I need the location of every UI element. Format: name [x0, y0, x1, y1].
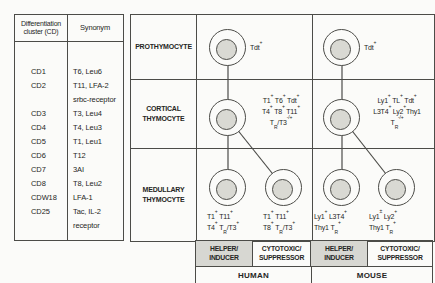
- cd-value: CD2: [15, 79, 67, 93]
- mouse-medullary-helper-markers: Ly1+ L3T4+ Thy1 TR+: [314, 211, 347, 233]
- synonym-value: T11, LFA-2 srbc-receptor: [67, 79, 123, 107]
- table-header-divider: [15, 41, 123, 42]
- cell-nucleus: [330, 39, 351, 60]
- cd-table: Differentiation cluster (CD) Synonym CD1…: [14, 14, 124, 241]
- table-row: CD1T6, Leu6: [15, 65, 123, 79]
- cd-value: CD5: [15, 135, 67, 149]
- mouse-medullary-helper-cell: [323, 169, 360, 206]
- table-row: CD4T4, Leu3: [15, 121, 123, 135]
- lineage-box-mouse-cytotoxic-suppressor: CYTOTOXIC/ SUPPRESSOR: [367, 240, 433, 267]
- lineage-box-human-helper-inducer: HELPER/ INDUCER: [195, 240, 253, 267]
- species-row: HUMAN MOUSE: [195, 267, 433, 283]
- table-row: CDW18LFA-1: [15, 191, 123, 205]
- lineage-box-row: HELPER/ INDUCER CYTOTOXIC/ SUPPRESSOR HE…: [195, 240, 433, 267]
- table-row: CD5T1, Leu1: [15, 135, 123, 149]
- cell-nucleus: [272, 179, 293, 200]
- mouse-medullary-cytotoxic-cell: [378, 169, 415, 206]
- marker-line: TR-/+: [359, 117, 435, 128]
- cd-table-header-synonym: Synonym: [67, 15, 123, 41]
- marker-line: Thy1 TR+: [314, 222, 347, 233]
- cell-nucleus: [385, 179, 406, 200]
- synonym-value: T1, Leu1: [67, 135, 123, 149]
- cd-value: CD1: [15, 65, 67, 79]
- cd-value: CD3: [15, 107, 67, 121]
- table-row: CD6T12: [15, 149, 123, 163]
- mouse-prothymocyte-markers: Tdt+: [364, 42, 376, 53]
- mouse-prothymocyte-cell: [323, 29, 360, 66]
- synonym-value: T12: [67, 149, 123, 163]
- marker-line: Ly1+ TL+ Tdt+: [359, 95, 435, 106]
- table-row: CD73AI: [15, 163, 123, 177]
- marker-line: Thy1 TR+: [369, 222, 397, 233]
- human-cortical-markers: T1+ T6+ Tdt+ T4+ T8+ T11+ TR/T3-/+: [239, 95, 323, 128]
- human-medullary-cytotoxic-markers: T1+ T11+ T8+ TR/T3+: [263, 211, 295, 233]
- thymocyte-diagram: PROTHYMOCYTE CORTICAL THYMOCYTE MEDULLAR…: [130, 14, 435, 242]
- human-medullary-cytotoxic-cell: [265, 169, 302, 206]
- mouse-medullary-cytotoxic-markers: Ly1± Ly2+ Thy1 TR+: [369, 211, 397, 233]
- cd-value: CD25: [15, 205, 67, 219]
- species-label-mouse: MOUSE: [311, 267, 433, 283]
- cd-table-header: Differentiation cluster (CD) Synonym: [15, 15, 123, 41]
- thymocyte-differentiation-figure: Differentiation cluster (CD) Synonym CD1…: [0, 0, 435, 283]
- cd-table-header-cd: Differentiation cluster (CD): [15, 15, 67, 41]
- table-row: CD2T11, LFA-2 srbc-receptor: [15, 79, 123, 107]
- cell-nucleus: [330, 179, 351, 200]
- marker-line: Ly1+ L3T4+: [314, 211, 347, 222]
- table-row: CD8T8, Leu2: [15, 177, 123, 191]
- cd-value: CDW18: [15, 191, 67, 205]
- cd-value: CD7: [15, 163, 67, 177]
- marker-line: T1+ T11+: [263, 211, 295, 222]
- species-label-human: HUMAN: [195, 267, 311, 283]
- table-row: CD3T3, Leu4: [15, 107, 123, 121]
- mouse-cortical-markers: Ly1+ TL+ Tdt+ L3T4+ Ly2+Thy1 TR-/+: [359, 95, 435, 128]
- synonym-value: T4, Leu3: [67, 121, 123, 135]
- marker-line: T8+ TR/T3+: [263, 222, 295, 233]
- synonym-value: LFA-1: [67, 191, 123, 205]
- synonym-value: T6, Leu6: [67, 65, 123, 79]
- lineage-box-human-cytotoxic-suppressor: CYTOTOXIC/ SUPPRESSOR: [252, 240, 311, 267]
- synonym-value: T3, Leu4: [67, 107, 123, 121]
- marker-line: T4+ T8+ T11+: [239, 106, 323, 117]
- human-medullary-helper-cell: [209, 169, 246, 206]
- marker-line: L3T4+ Ly2+Thy1: [359, 106, 435, 117]
- marker-line: TR/T3-/+: [239, 117, 323, 128]
- human-medullary-helper-markers: T1+ T11+ T4+ TR/T3+: [207, 211, 239, 233]
- synonym-value: Tac, IL-2 receptor: [67, 205, 123, 233]
- table-row: CD25Tac, IL-2 receptor: [15, 205, 123, 233]
- cd-value: CD8: [15, 177, 67, 191]
- cell-nucleus: [216, 109, 237, 130]
- synonym-value: T8, Leu2: [67, 177, 123, 191]
- synonym-value: 3AI: [67, 163, 123, 177]
- cd-value: CD4: [15, 121, 67, 135]
- marker-line: T4+ TR/T3+: [207, 222, 239, 233]
- lineage-connector-lines: [131, 15, 434, 241]
- human-prothymocyte-markers: Tdt+: [250, 42, 262, 53]
- marker-line: T1+ T6+ Tdt+: [239, 95, 323, 106]
- mouse-cortical-thymocyte-cell: [323, 99, 360, 136]
- cell-nucleus: [330, 109, 351, 130]
- lineage-box-mouse-helper-inducer: HELPER/ INDUCER: [310, 240, 368, 267]
- cd-value: CD6: [15, 149, 67, 163]
- human-prothymocyte-cell: [209, 29, 246, 66]
- marker-line: T1+ T11+: [207, 211, 239, 222]
- cd-table-body: CD1T6, Leu6 CD2T11, LFA-2 srbc-receptor …: [15, 65, 123, 233]
- cell-nucleus: [216, 39, 237, 60]
- cell-nucleus: [216, 179, 237, 200]
